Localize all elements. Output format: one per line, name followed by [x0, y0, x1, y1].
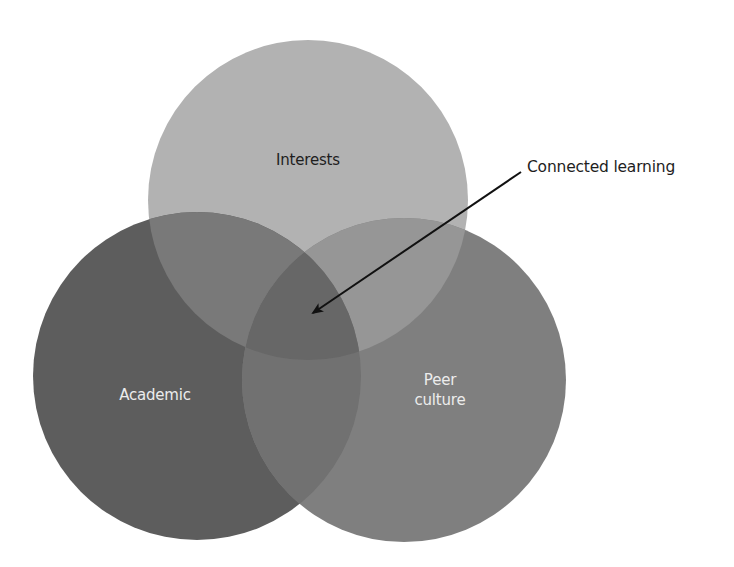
label-peer-culture-line2: culture	[400, 390, 480, 410]
label-peer-culture-line1: Peer	[400, 370, 480, 390]
label-academic: Academic	[105, 385, 205, 405]
venn-diagram: Interests Academic Peer culture Connecte…	[0, 0, 734, 567]
label-peer-culture: Peer culture	[400, 370, 480, 410]
label-connected-learning: Connected learning	[527, 158, 675, 176]
venn-svg	[0, 0, 734, 567]
label-interests: Interests	[268, 150, 348, 170]
